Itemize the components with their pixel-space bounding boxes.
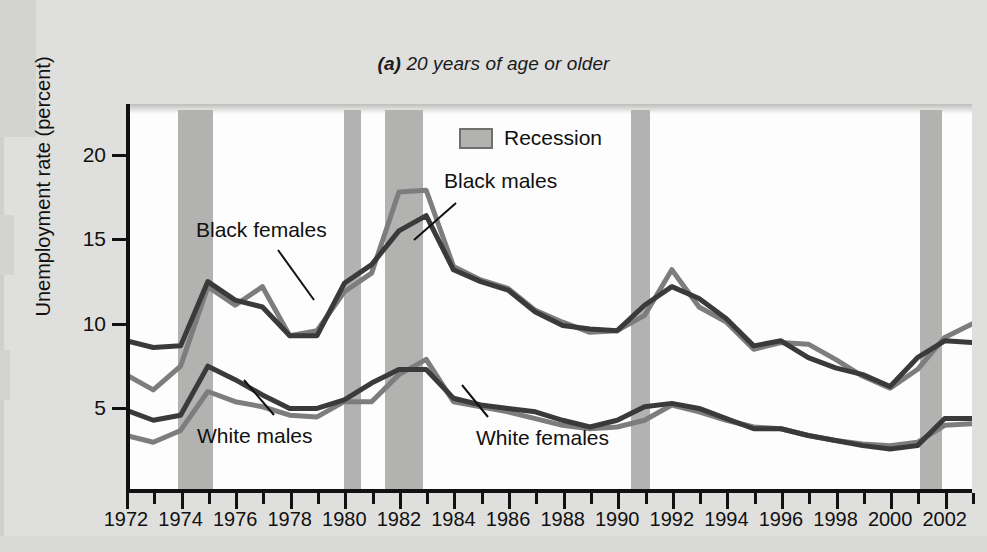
chart-title-rest: 20 years of age or older [401,53,609,74]
leader-line-white-males [244,380,274,415]
x-axis-tick-mark [672,493,675,509]
x-axis-tick-mark [399,493,402,509]
x-axis-tick-mark [126,493,129,509]
x-axis-tick-mark [972,493,975,504]
x-axis-tick-marks [126,493,972,509]
x-axis-tick-mark [917,493,920,504]
y-axis-tick-label: 20 [62,144,106,165]
x-axis-tick-mark [645,493,648,504]
y-axis-line [126,104,130,493]
x-axis-tick-mark [344,493,347,509]
x-axis-tick-mark [426,493,429,504]
x-axis-tick-mark [945,493,948,509]
x-axis-tick-mark [563,493,566,509]
recession-legend-label: Recession [504,126,602,150]
page-margin-block [0,350,10,400]
chart-title: (a) 20 years of age or older [0,53,987,75]
chart-title-prefix: (a) [378,53,402,74]
leader-line-white-females [462,385,488,417]
x-axis-tick-mark [781,493,784,509]
x-axis-tick-mark [208,493,211,504]
x-axis-tick-mark [235,493,238,509]
x-axis-tick-mark [836,493,839,509]
x-axis-tick-mark [262,493,265,504]
x-axis-tick-mark [453,493,456,509]
x-axis-tick-mark [508,493,511,509]
figure-panel: (a) 20 years of age or older Unemploymen… [0,0,987,552]
x-axis-tick-mark [290,493,293,509]
x-axis-tick-mark [153,493,156,504]
x-axis-tick-mark [372,493,375,504]
x-axis-tick-mark [890,493,893,509]
annotation-black-females: Black females [196,218,327,242]
annotation-white-males: White males [197,424,313,448]
y-axis-tick-label: 5 [62,397,106,418]
y-axis-label: Unemployment rate (percent) [32,7,55,367]
y-axis-tick-mark [112,407,126,410]
plot-area: Recession Black females Black males Whit… [126,104,972,493]
x-axis-tick-mark [317,493,320,504]
x-axis-tick-mark [481,493,484,504]
y-axis-tick-mark [112,238,126,241]
leader-line-black-males [414,203,456,240]
x-axis-tick-mark [699,493,702,504]
annotation-white-females: White females [476,426,609,450]
x-axis-tick-label: 2002 [913,509,977,530]
page-margin-block [0,215,14,275]
annotation-black-males: Black males [444,169,557,193]
x-axis-tick-mark [863,493,866,504]
y-axis-tick-label: 15 [62,228,106,249]
x-axis-tick-labels: 1972197419761978198019821984198619881990… [126,509,972,539]
y-axis-tick-labels: 5101520 [60,104,106,493]
recession-legend-swatch [459,128,493,149]
x-axis-tick-mark [535,493,538,504]
legend: Recession [459,126,602,150]
leader-line-black-females [278,250,314,300]
x-axis-tick-mark [726,493,729,509]
x-axis-tick-mark [808,493,811,504]
x-axis-tick-mark [181,493,184,509]
x-axis-tick-mark [590,493,593,504]
y-axis-tick-label: 10 [62,313,106,334]
y-axis-tick-mark [112,323,126,326]
x-axis-tick-mark [754,493,757,504]
y-axis-tick-mark [112,154,126,157]
x-axis-tick-mark [617,493,620,509]
